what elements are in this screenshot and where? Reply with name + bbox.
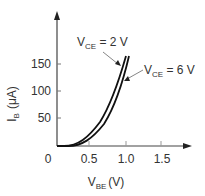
y-axis-arrow-icon bbox=[54, 11, 60, 20]
y-tick-label: 150 bbox=[31, 57, 51, 71]
x-tick-label: 1.5 bbox=[154, 152, 171, 166]
y-tick-label: 100 bbox=[31, 84, 51, 98]
y-axis-label: IB(μA) bbox=[5, 86, 21, 122]
arrow-head-icon bbox=[115, 60, 121, 66]
annotation-vce-2v: VCE = 2 V bbox=[77, 35, 128, 51]
x-ticks bbox=[89, 141, 161, 146]
arrow-head-icon bbox=[124, 76, 130, 81]
x-axis-arrow-icon bbox=[183, 143, 192, 149]
x-axis-label: VBE(V) bbox=[88, 175, 125, 191]
bjt-input-characteristic-chart: 50 100 150 0 0.5 1.0 1.5 VBE(V) IB(μA) V… bbox=[0, 0, 205, 196]
annotation-vce-6v: VCE = 6 V bbox=[144, 63, 195, 79]
series-vce-6v bbox=[62, 56, 129, 146]
x-tick-label: 0.5 bbox=[81, 152, 98, 166]
y-tick-label: 50 bbox=[38, 111, 52, 125]
x-tick-label: 1.0 bbox=[118, 152, 135, 166]
annotation-arrow-vce-6v bbox=[127, 70, 143, 79]
x-tick-label: 0 bbox=[45, 152, 52, 166]
annotation-arrow-vce-2v bbox=[103, 52, 118, 64]
